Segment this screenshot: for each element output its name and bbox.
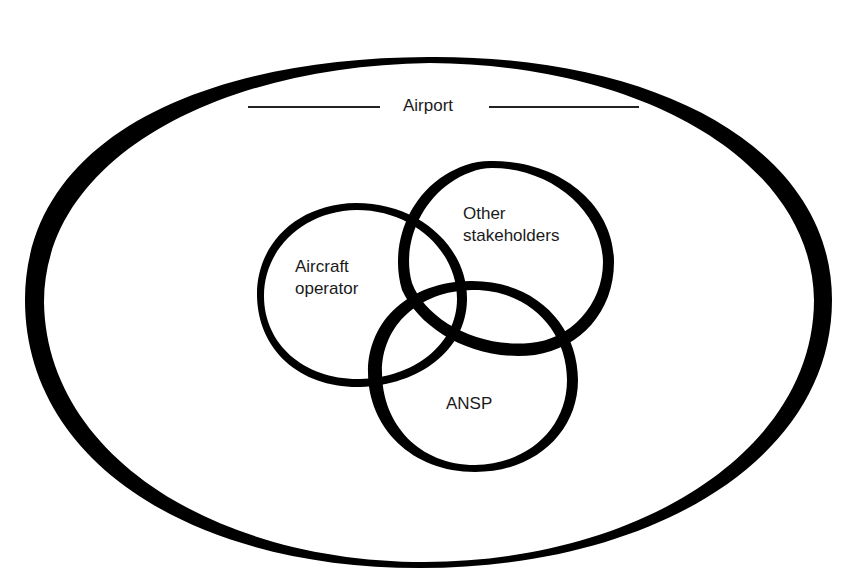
airport-venn-diagram: Airport Aircraft operator Other stakehol… (0, 0, 856, 581)
airport-label: Airport (403, 95, 453, 117)
diagram-graphics (0, 0, 856, 581)
other-stakeholders-label: Other stakeholders (463, 203, 559, 247)
title-rule-left (248, 106, 380, 108)
ansp-label: ANSP (446, 393, 492, 415)
aircraft-operator-label: Aircraft operator (295, 256, 358, 300)
title-rule-right (489, 106, 639, 108)
other-stakeholders-circle (398, 161, 614, 356)
